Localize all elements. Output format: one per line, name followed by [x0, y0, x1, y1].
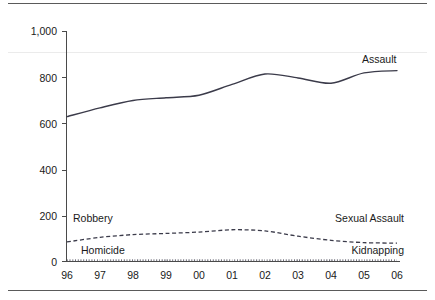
line-chart: 1,000 800 600 400 200 0 96 97 98 99 00 0… [0, 0, 435, 300]
series-annotation-sexual-assault: Sexual Assault [335, 212, 404, 224]
x-tick-label-98: 98 [127, 269, 139, 281]
series-annotation-robbery: Robbery [73, 212, 113, 224]
series-annotation-homicide: Homicide [81, 244, 125, 256]
x-tick-label-96: 96 [61, 269, 73, 281]
y-tick-label-400: 400 [39, 164, 57, 176]
series-annotation-assault: Assault [362, 53, 397, 65]
y-tick-label-800: 800 [39, 72, 57, 84]
x-tick-label-03: 03 [292, 269, 304, 281]
x-tick-label-97: 97 [94, 269, 106, 281]
x-tick-label-02: 02 [259, 269, 271, 281]
x-tick-label-01: 01 [226, 269, 238, 281]
y-tick-label-1000: 1,000 [31, 25, 57, 37]
x-tick-label-04: 04 [325, 269, 337, 281]
figure-container: 1,000 800 600 400 200 0 96 97 98 99 00 0… [0, 0, 435, 300]
x-tick-label-99: 99 [160, 269, 172, 281]
x-tick-label-00: 00 [193, 269, 205, 281]
y-tick-label-600: 600 [39, 118, 57, 130]
series-annotation-kidnapping: Kidnapping [351, 244, 404, 256]
y-tick-label-200: 200 [39, 210, 57, 222]
series-line-assault [67, 71, 397, 117]
series-line-robbery-sexual-assault [67, 230, 397, 243]
x-tick-label-05: 05 [358, 269, 370, 281]
x-tick-label-06: 06 [391, 269, 403, 281]
y-tick-label-0: 0 [51, 256, 57, 268]
